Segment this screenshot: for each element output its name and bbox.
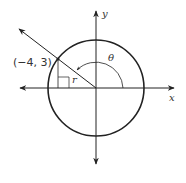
theta-label: θ xyxy=(108,52,114,63)
x-axis-label: x xyxy=(169,92,175,103)
point-label: (−4, 3) xyxy=(13,56,52,69)
radius-label: r xyxy=(72,74,78,85)
right-angle-marker xyxy=(58,77,69,88)
unit-circle-diagram: (−4, 3) θ r y x xyxy=(0,0,186,183)
y-axis-label: y xyxy=(101,8,108,19)
theta-arc xyxy=(77,62,123,88)
